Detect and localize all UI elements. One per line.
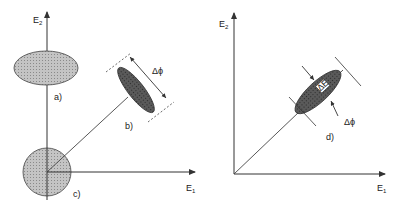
delta-phi-label-b: Δϕ: [152, 66, 163, 76]
distribution-a: [14, 51, 78, 85]
right-panel: ΔE Δϕ d) E2 E1: [219, 13, 387, 194]
y-axis-label: E2: [219, 19, 229, 30]
x-axis-label: E1: [377, 183, 387, 194]
delta-phi-arrow-in-1: [302, 66, 314, 80]
x-axis-label: E1: [186, 183, 196, 194]
y-axis-label: E2: [33, 15, 43, 26]
delta-phi-label-d: Δϕ: [344, 117, 355, 127]
label-c: c): [73, 189, 81, 199]
delta-phi-arrow-in-2: [331, 101, 338, 116]
phasor-line-b: [47, 97, 128, 172]
label-a: a): [54, 92, 62, 102]
label-b: b): [125, 121, 133, 131]
left-panel: Δϕ a) b) c) E2 E1: [14, 12, 196, 200]
label-d: d): [326, 132, 334, 142]
distribution-d: [289, 64, 347, 120]
diagram-canvas: Δϕ a) b) c) E2 E1 ΔE Δϕ d) E2 E1: [0, 0, 402, 208]
